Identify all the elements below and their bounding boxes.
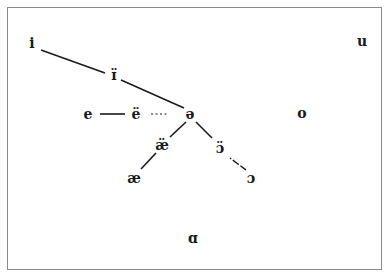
line-schwa-to-ae-umlaut [170,122,186,137]
vowel-i: i [29,36,34,50]
vowel-open-o: ɔ [247,171,256,185]
vowel-script-a: ɑ [188,231,198,245]
vowel-schwa: ə [186,107,195,121]
line-i-to-i-centralized [41,50,105,73]
vowel-ae: æ [127,171,141,185]
vowel-open-o-umlaut: ɔ̈ [216,141,225,155]
vowel-e: e [84,107,93,121]
vowel-u: u [357,34,367,48]
line-schwa-to-open-o-umlaut [196,122,212,138]
line-ae-umlaut-to-ae [141,153,156,169]
line-open-o-umlaut-to-open-o [230,158,246,170]
vowel-i-centralized: ɪ̈ [111,68,116,82]
vowel-e-umlaut: ë [132,107,141,121]
vowel-ae-umlaut: æ̈ [155,138,169,152]
vowel-o: o [297,106,306,120]
line-i-centralized-to-schwa [121,80,184,108]
